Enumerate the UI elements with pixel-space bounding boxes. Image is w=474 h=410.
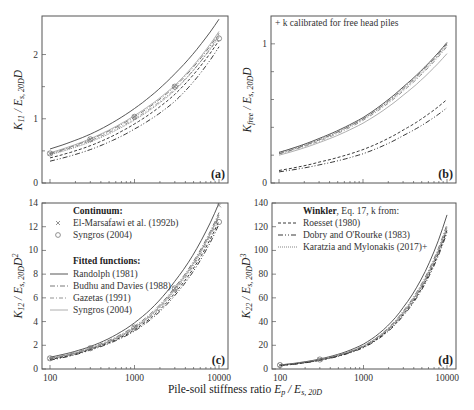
y-label-a: K11 / Es, 20DD <box>12 69 26 131</box>
y-tick-label: 2 <box>33 340 38 350</box>
x-tick-label: 100 <box>43 373 58 383</box>
panel-b: 01(b)+ k calibrated for free head piles <box>262 16 456 188</box>
panel-label: (b) <box>438 167 453 181</box>
legend-entry: Syngros (2004) <box>73 305 132 316</box>
legend-entry: Gazetas (1991) <box>73 293 131 304</box>
series-line <box>50 37 219 154</box>
y-tick-label: 2 <box>33 50 38 60</box>
y-tick-label: 20 <box>259 340 269 350</box>
panel-annotation: + k calibrated for free head piles <box>275 18 399 28</box>
legend-entry: Budhu and Davies (1988) <box>73 281 171 292</box>
x-tick-label: 10000 <box>435 373 459 383</box>
series-line <box>279 45 447 152</box>
legend-entry: Randolph (1981) <box>73 269 138 280</box>
x-axis-label: Pile-soil stiffness ratio Ep / Es, 20D <box>168 383 322 397</box>
y-tick-label: 12 <box>29 222 39 232</box>
legend-title-winkler: Winkler, Eq. 17, k from: <box>303 206 399 216</box>
series-line <box>279 47 447 154</box>
panel-d: 100100010000020406080100120140(d)Winkler… <box>254 198 459 383</box>
figure: 012(a) 01(b)+ k calibrated for free head… <box>0 0 474 410</box>
x-tick-label: 1000 <box>125 373 144 383</box>
legend-title-continuum: Continuum: <box>73 206 123 216</box>
legend-marker-x <box>56 221 60 225</box>
x-tick-label: 10000 <box>207 373 231 383</box>
legend-entry: El-Marsafawi et al. (1992b) <box>73 218 179 229</box>
y-tick-label: 60 <box>259 293 269 303</box>
y-label-c: K12 / Es, 20DD2 <box>11 254 26 320</box>
y-tick-label: 4 <box>33 317 38 327</box>
legend-title-fitted: Fitted functions: <box>73 256 140 266</box>
y-tick-label: 80 <box>259 269 269 279</box>
legend-marker-circle <box>56 233 61 238</box>
panel-label: (c) <box>212 353 225 367</box>
y-tick-label: 40 <box>259 317 269 327</box>
y-tick-label: 8 <box>33 269 38 279</box>
y-tick-label: 120 <box>254 222 269 232</box>
y-tick-label: 0 <box>262 178 267 188</box>
y-tick-label: 1 <box>262 39 267 49</box>
series-line <box>50 19 219 149</box>
x-tick-label: 100 <box>273 373 288 383</box>
panel-c: 10010001000002468101214(c)Continuum:El-M… <box>29 198 232 383</box>
y-tick-label: 14 <box>29 198 39 208</box>
y-label-d: K22 / Es, 20DD3 <box>239 254 254 320</box>
series-line <box>279 42 447 152</box>
series-line <box>279 100 447 171</box>
y-label-b: Kfree / Es, 20DD <box>241 67 255 134</box>
legend-entry: Roesset (1980) <box>303 218 360 229</box>
series-line <box>50 31 219 152</box>
series-line <box>279 44 447 154</box>
legend-entry: Dobry and O'Rourke (1983) <box>303 230 410 241</box>
series-line <box>279 54 447 156</box>
y-tick-label: 100 <box>254 245 269 255</box>
y-tick-label: 1 <box>33 114 38 124</box>
y-tick-label: 10 <box>29 245 39 255</box>
y-tick-label: 140 <box>254 198 269 208</box>
series-line <box>50 33 219 153</box>
x-tick-label: 1000 <box>354 373 373 383</box>
y-tick-label: 0 <box>33 178 38 188</box>
panel-label: (d) <box>438 353 453 367</box>
axes-frame <box>42 16 228 183</box>
y-tick-label: 0 <box>33 364 38 374</box>
y-tick-label: 0 <box>263 364 268 374</box>
legend-entry: Syngros (2004) <box>73 230 132 241</box>
axes-frame <box>271 16 456 183</box>
legend-entry: Karatzia and Mylonakis (2017)+ <box>303 242 427 253</box>
series-line <box>50 47 219 161</box>
panel-a: 012(a) <box>33 16 228 188</box>
panel-label: (a) <box>211 167 225 181</box>
y-tick-label: 6 <box>33 293 38 303</box>
